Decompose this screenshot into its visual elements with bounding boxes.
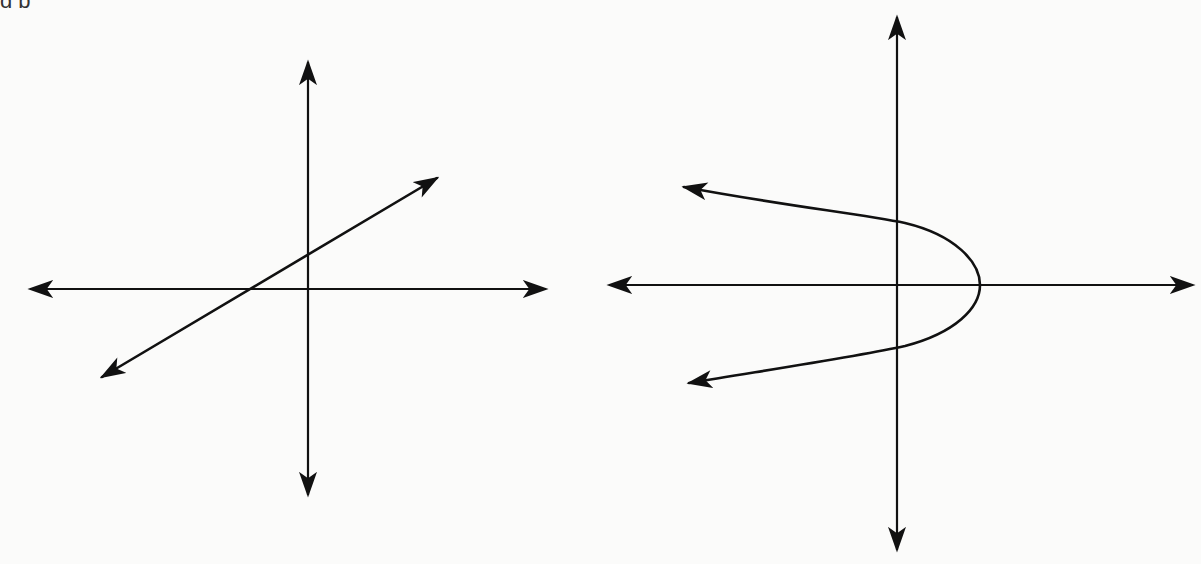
diagram-canvas: g p — [0, 0, 1201, 564]
graphs-svg — [0, 0, 1201, 564]
left-linear-line — [102, 178, 437, 377]
left-graph — [30, 62, 546, 495]
right-graph — [609, 17, 1193, 550]
